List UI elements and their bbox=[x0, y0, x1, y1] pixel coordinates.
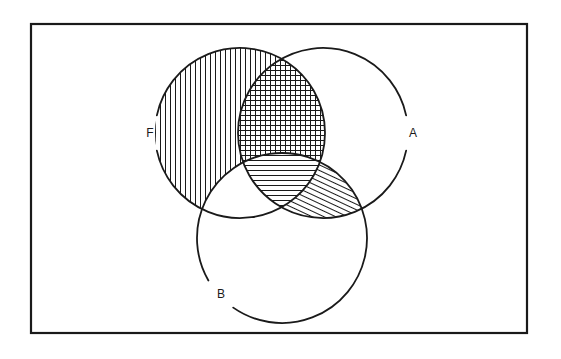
set-label-b: B bbox=[217, 287, 225, 301]
venn-diagram-figure: F A B bbox=[0, 0, 561, 359]
set-label-a: A bbox=[409, 126, 417, 140]
venn-diagram-canvas: F A B bbox=[0, 0, 561, 359]
set-label-f: F bbox=[146, 126, 153, 140]
